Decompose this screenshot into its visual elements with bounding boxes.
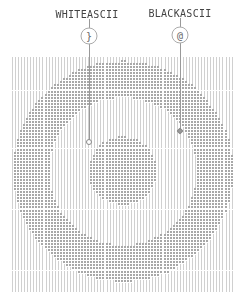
black-glyph-marker: @ bbox=[172, 27, 189, 44]
black-ascii-label: BLACKASCII bbox=[148, 8, 211, 19]
white-glyph-marker: } bbox=[81, 28, 98, 45]
white-ascii-label: WHITEASCII bbox=[55, 9, 118, 20]
ascii-target-art bbox=[0, 0, 245, 294]
white-sample-point bbox=[86, 139, 92, 145]
